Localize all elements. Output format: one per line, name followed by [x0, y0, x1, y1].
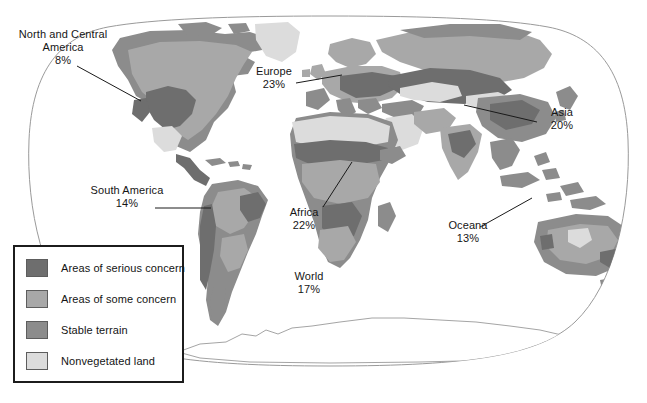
callout-value-north-central-america: 8%	[8, 54, 118, 67]
world-degradation-map-figure: North and Central America 8% Europe 23% …	[0, 0, 647, 403]
callout-value-europe: 23%	[248, 78, 300, 91]
legend-item-serious-concern: Areas of serious concern	[26, 258, 185, 277]
swatch-some-concern	[26, 290, 48, 308]
legend-item-nonvegetated-land: Nonvegetated land	[26, 351, 155, 370]
swatch-stable-terrain	[26, 321, 48, 339]
callout-value-south-america: 14%	[88, 197, 166, 210]
legend-item-stable-terrain: Stable terrain	[26, 320, 128, 339]
legend-label-some-concern: Areas of some concern	[61, 293, 176, 305]
legend-label-serious-concern: Areas of serious concern	[61, 262, 185, 274]
callout-europe: Europe 23%	[248, 65, 300, 91]
callout-region-label-asia: Asia	[540, 106, 584, 119]
legend-label-stable-terrain: Stable terrain	[61, 324, 128, 336]
callout-region-label-north-central-america-line1: North and Central	[8, 28, 118, 41]
callout-oceana: Oceana 13%	[441, 219, 495, 245]
callout-value-africa: 22%	[280, 219, 328, 232]
callout-asia: Asia 20%	[540, 106, 584, 132]
swatch-serious-concern	[26, 259, 48, 277]
callout-region-label-south-america: South America	[88, 184, 166, 197]
callout-value-oceana: 13%	[441, 232, 495, 245]
callout-africa: Africa 22%	[280, 206, 328, 232]
legend-label-nonvegetated-land: Nonvegetated land	[61, 355, 155, 367]
callout-value-asia: 20%	[540, 119, 584, 132]
callout-world: World 17%	[285, 270, 333, 296]
callout-region-label-africa: Africa	[280, 206, 328, 219]
callout-region-label-europe: Europe	[248, 65, 300, 78]
callout-north-central-america: North and Central America 8%	[8, 28, 118, 67]
callout-region-label-north-central-america-line2: America	[8, 41, 118, 54]
map-legend: Areas of serious concern Areas of some c…	[13, 245, 184, 383]
callout-region-label-world: World	[285, 270, 333, 283]
callout-value-world: 17%	[285, 283, 333, 296]
callout-region-label-oceana: Oceana	[441, 219, 495, 232]
legend-item-some-concern: Areas of some concern	[26, 289, 176, 308]
swatch-nonvegetated-land	[26, 352, 48, 370]
callout-south-america: South America 14%	[88, 184, 166, 210]
